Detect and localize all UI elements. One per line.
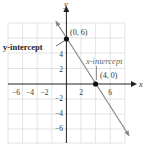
y-intercept-annotation: y-intercept [3, 42, 43, 52]
x-tick: 2 [79, 88, 83, 97]
y-tick: −2 [55, 94, 63, 103]
x-intercept-point [93, 81, 98, 86]
point-label-0-6: (0, 6) [70, 28, 88, 37]
x-tick: −4 [26, 88, 34, 97]
x-axis-label: x [138, 79, 143, 89]
x-tick: −2 [41, 88, 49, 97]
y-intercept-leader [56, 41, 64, 46]
y-axis-label: y [63, 0, 68, 9]
y-tick: −6 [55, 124, 63, 133]
x-intercept-annotation: x-intercept [85, 56, 123, 66]
x-tick: −6 [12, 88, 20, 97]
point-label-4-0: (4, 0) [100, 71, 118, 80]
y-intercept-point [64, 36, 69, 41]
y-tick: 2 [59, 65, 63, 74]
y-tick: −4 [55, 109, 63, 118]
x-tick: 6 [108, 88, 112, 97]
coordinate-plane: x y −6 −4 −2 2 6 4 2 −2 −4 −6 (0, 6) (4,… [0, 0, 148, 149]
y-tick: 4 [59, 50, 63, 59]
